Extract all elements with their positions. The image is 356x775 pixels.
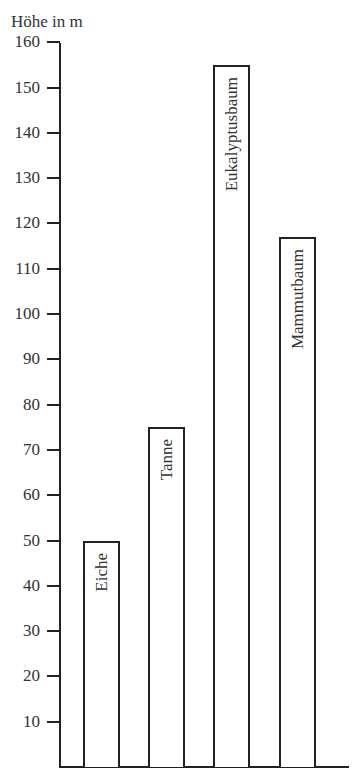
y-tick-label: 160 xyxy=(0,33,40,50)
y-tick-label: 80 xyxy=(0,396,40,413)
bar-label: Mammutbaum xyxy=(288,249,308,349)
y-tick-label: 20 xyxy=(0,667,40,684)
y-tick-label: 110 xyxy=(0,260,40,277)
y-tick-label: 60 xyxy=(0,486,40,503)
y-tick xyxy=(47,313,60,315)
y-tick xyxy=(47,449,60,451)
y-tick-label: 10 xyxy=(0,713,40,730)
y-tick xyxy=(47,41,60,43)
y-tick xyxy=(47,404,60,406)
bar-label: Eiche xyxy=(92,553,112,592)
y-axis-title: Höhe in m xyxy=(11,12,83,32)
bar-tanne: Tanne xyxy=(148,427,185,767)
y-tick xyxy=(47,721,60,723)
y-tick xyxy=(47,585,60,587)
y-tick xyxy=(47,132,60,134)
y-tick xyxy=(47,268,60,270)
y-tick-label: 130 xyxy=(0,169,40,186)
y-tick xyxy=(47,358,60,360)
y-tick-label: 90 xyxy=(0,350,40,367)
y-tick-label: 50 xyxy=(0,532,40,549)
y-tick-label: 120 xyxy=(0,214,40,231)
y-tick xyxy=(47,540,60,542)
bar-mammutbaum: Mammutbaum xyxy=(279,237,316,767)
y-tick xyxy=(47,222,60,224)
bar-label: Tanne xyxy=(157,439,177,480)
y-tick-label: 100 xyxy=(0,305,40,322)
y-tick-label: 40 xyxy=(0,577,40,594)
y-tick-label: 150 xyxy=(0,79,40,96)
bar-label: Eukalyptusbaum xyxy=(222,77,242,191)
bar-eukalyptusbaum: Eukalyptusbaum xyxy=(213,65,250,767)
y-tick xyxy=(47,675,60,677)
bar-chart: Höhe in m 102030405060708090100110120130… xyxy=(0,0,356,775)
y-tick xyxy=(47,630,60,632)
y-tick xyxy=(47,177,60,179)
y-tick-label: 30 xyxy=(0,622,40,639)
bar-eiche: Eiche xyxy=(83,541,120,768)
y-tick-label: 140 xyxy=(0,124,40,141)
y-tick-label: 70 xyxy=(0,441,40,458)
y-tick xyxy=(47,87,60,89)
y-tick xyxy=(47,494,60,496)
